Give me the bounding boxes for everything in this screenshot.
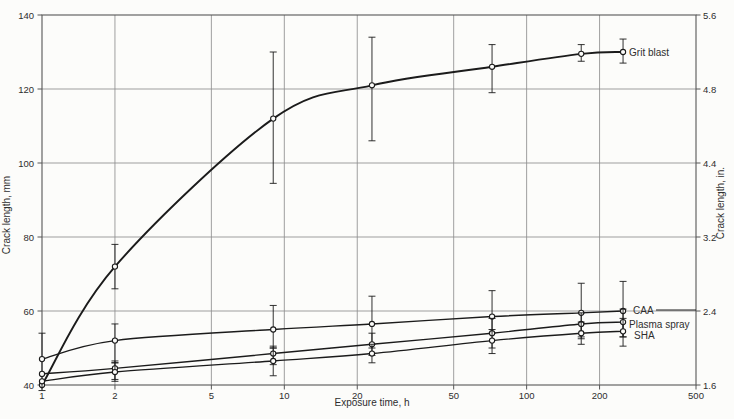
x-tick-label: 500 <box>688 390 704 401</box>
x-tick-label: 100 <box>519 390 535 401</box>
data-point-marker-grit-blast <box>369 83 374 88</box>
tick-layer: 1251020501002005004060801001201401.62.43… <box>18 10 716 402</box>
data-point-marker-caa <box>271 327 276 332</box>
data-point-marker-grit-blast <box>489 64 494 69</box>
data-point-marker-sha <box>39 379 44 384</box>
y-right-tick-label: 4.8 <box>703 84 716 95</box>
crack-propagation-chart: 1251020501002005004060801001201401.62.43… <box>0 0 734 419</box>
x-tick-label: 1 <box>39 390 44 401</box>
data-point-marker-grit-blast <box>271 116 276 121</box>
x-tick-label: 5 <box>209 390 214 401</box>
y-right-tick-label: 1.6 <box>703 380 716 391</box>
data-point-marker-caa <box>369 321 374 326</box>
x-tick-label: 200 <box>592 390 608 401</box>
data-point-marker-caa <box>112 338 117 343</box>
series-path-caa <box>42 311 623 359</box>
y-right-tick-label: 2.4 <box>703 306 716 317</box>
series-label-grit-blast: Grit blast <box>629 47 669 58</box>
y-right-tick-label: 5.6 <box>703 10 716 21</box>
data-point-marker-plasma-spray <box>39 371 44 376</box>
frame-layer <box>42 15 696 385</box>
y-left-tick-label: 100 <box>18 158 34 169</box>
y-left-tick-label: 40 <box>23 380 34 391</box>
series-path-plasma-spray <box>42 322 623 374</box>
data-point-marker-sha <box>579 331 584 336</box>
y-left-tick-label: 80 <box>23 232 34 243</box>
x-axis-title: Exposure time, h <box>334 397 409 408</box>
series-label-sha: SHA <box>634 330 655 341</box>
data-point-marker-sha <box>369 351 374 356</box>
series-path-grit-blast <box>42 52 623 385</box>
x-tick-label: 2 <box>112 390 117 401</box>
data-point-marker-grit-blast <box>579 51 584 56</box>
data-point-marker-sha <box>271 358 276 363</box>
y-axis-title-left: Crack length, mm <box>1 176 12 254</box>
data-point-marker-sha <box>489 338 494 343</box>
data-point-marker-sha <box>620 329 625 334</box>
x-tick-label: 50 <box>448 390 459 401</box>
y-left-tick-label: 140 <box>18 10 34 21</box>
series-layer: Grit blastCAAPlasma spraySHA <box>39 37 697 390</box>
plot-frame <box>42 15 696 385</box>
y-right-tick-label: 4.4 <box>703 158 716 169</box>
series-label-caa: CAA <box>633 305 654 316</box>
x-tick-label: 10 <box>279 390 290 401</box>
y-axis-title-right: Crack length, in. <box>715 167 726 239</box>
grid-layer <box>42 15 696 385</box>
data-point-marker-grit-blast <box>112 264 117 269</box>
crack-propagation-figure: 1251020501002005004060801001201401.62.43… <box>0 0 734 419</box>
y-left-tick-label: 60 <box>23 306 34 317</box>
data-point-marker-sha <box>112 369 117 374</box>
data-point-marker-caa <box>39 357 44 362</box>
data-point-marker-grit-blast <box>620 49 625 54</box>
series-label-plasma-spray: Plasma spray <box>629 319 690 330</box>
y-left-tick-label: 120 <box>18 84 34 95</box>
